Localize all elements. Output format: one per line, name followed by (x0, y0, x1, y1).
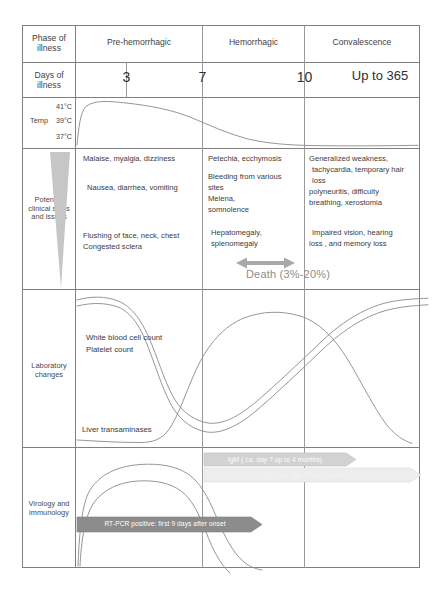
rtpcr-arrow-layer (0, 0, 441, 595)
vhf-course-diagram: Phase of illness Pre-hemorrhagic Hemorrh… (0, 0, 441, 595)
rtpcr-arrow-label-text: RT-PCR positive: first 9 days after onse… (104, 520, 225, 527)
rtpcr-arrow-label: RT-PCR positive: first 9 days after onse… (79, 520, 251, 527)
